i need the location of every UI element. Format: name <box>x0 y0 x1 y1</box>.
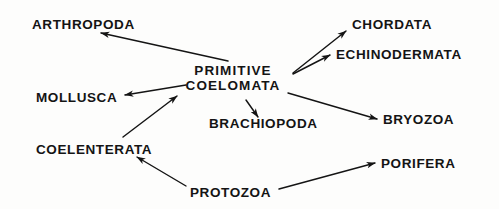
node-protozoa: PROTOZOA <box>190 185 271 200</box>
edge-protozoa-to-coelenterata <box>137 157 186 186</box>
node-coelenterata: COELENTERATA <box>36 142 152 157</box>
node-mollusca: MOLLUSCA <box>36 90 117 105</box>
node-arthropoda: ARTHROPODA <box>32 17 135 32</box>
node-bryozoa: BRYOZOA <box>383 112 454 127</box>
edge-protozoa-to-porifera <box>279 163 375 189</box>
node-primitive-coelomata: PRIMITIVE COELOMATA <box>177 63 289 93</box>
node-brachiopoda: BRACHIOPODA <box>209 116 318 131</box>
node-chordata: CHORDATA <box>352 17 432 32</box>
edge-coelomata-to-brachiopoda <box>246 100 258 117</box>
node-echinodermata: ECHINODERMATA <box>336 47 462 62</box>
node-primitive-coelomata-line2: COELOMATA <box>177 78 289 93</box>
phylogenetic-diagram: ARTHROPODA CHORDATA ECHINODERMATA PRIMIT… <box>0 0 499 209</box>
edge-coelomata-to-arthropoda <box>101 33 228 61</box>
node-porifera: PORIFERA <box>381 156 456 171</box>
edge-coelenterata-to-coelomata <box>123 96 177 137</box>
node-primitive-coelomata-line1: PRIMITIVE <box>194 63 271 78</box>
